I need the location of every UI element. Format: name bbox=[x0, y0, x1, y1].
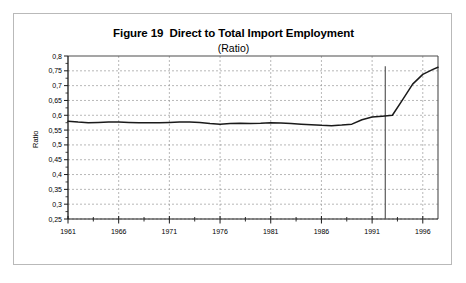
y-axis-tick-label: 0,55 bbox=[32, 127, 62, 134]
y-axis-tick-label: 0,5 bbox=[32, 141, 62, 148]
y-axis-tick-label: 0,8 bbox=[32, 53, 62, 60]
data-line-series bbox=[68, 67, 438, 125]
y-axis-tick-label: 0,25 bbox=[32, 216, 62, 223]
y-axis-tick-label: 0,3 bbox=[32, 201, 62, 208]
x-axis-tick-label: 1981 bbox=[256, 228, 286, 235]
y-axis-tick-label: 0,4 bbox=[32, 171, 62, 178]
x-axis-tick-label: 1966 bbox=[104, 228, 134, 235]
x-axis-tick-label: 1961 bbox=[53, 228, 83, 235]
y-axis-tick-label: 0,35 bbox=[32, 186, 62, 193]
figure-frame: Figure 19 Direct to Total Import Employm… bbox=[13, 13, 452, 265]
x-axis-tick-label: 1991 bbox=[357, 228, 387, 235]
x-axis-tick-label: 1976 bbox=[205, 228, 235, 235]
x-axis-tick-label: 1971 bbox=[154, 228, 184, 235]
plot-area: Ratio 0,80,750,70,650,60,550,50,450,40,3… bbox=[14, 14, 453, 266]
x-axis-tick-label: 1986 bbox=[306, 228, 336, 235]
x-axis-tick-label: 1996 bbox=[408, 228, 438, 235]
y-axis-tick-label: 0,75 bbox=[32, 67, 62, 74]
y-axis-tick-label: 0,6 bbox=[32, 112, 62, 119]
y-axis-tick-label: 0,65 bbox=[32, 97, 62, 104]
y-axis-tick-label: 0,45 bbox=[32, 156, 62, 163]
y-axis-tick-label: 0,7 bbox=[32, 82, 62, 89]
